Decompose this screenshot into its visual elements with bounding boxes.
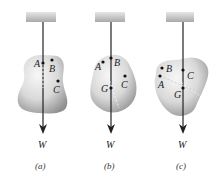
label-A: A <box>157 79 165 90</box>
label-B: B <box>166 63 172 74</box>
label-B: B <box>114 57 120 68</box>
ceiling-support <box>26 12 56 22</box>
label-G: G <box>101 83 108 94</box>
weight-label: W <box>38 139 48 150</box>
weight-label: W <box>106 139 116 150</box>
panel-c: B A C G W (c) <box>155 12 209 171</box>
label-A: A <box>33 58 41 69</box>
ceiling-support <box>95 12 125 22</box>
point-A <box>158 74 161 77</box>
point-G <box>181 86 184 89</box>
point-B <box>160 66 163 69</box>
label-A: A <box>94 61 102 72</box>
label-C: C <box>53 84 60 95</box>
point-A <box>41 61 44 64</box>
label-C: C <box>187 70 194 81</box>
caption-a: (a) <box>35 161 46 171</box>
point-G <box>109 86 112 89</box>
caption-b: (b) <box>104 161 115 171</box>
point-C <box>56 79 59 82</box>
point-B <box>109 56 112 59</box>
caption-c: (c) <box>176 161 186 171</box>
point-C <box>181 68 184 71</box>
point-B <box>50 58 53 61</box>
suspended-body-diagram: A B C W (a) A B C G W (b) B A C <box>0 0 223 185</box>
point-C <box>123 74 126 77</box>
point-A <box>101 60 104 63</box>
panel-b: A B C G W (b) <box>90 12 136 171</box>
weight-label: W <box>178 139 188 150</box>
panel-a: A B C W (a) <box>18 12 68 171</box>
ceiling-support <box>166 12 194 22</box>
label-C: C <box>121 79 128 90</box>
label-B: B <box>49 63 55 74</box>
label-G: G <box>174 89 181 100</box>
